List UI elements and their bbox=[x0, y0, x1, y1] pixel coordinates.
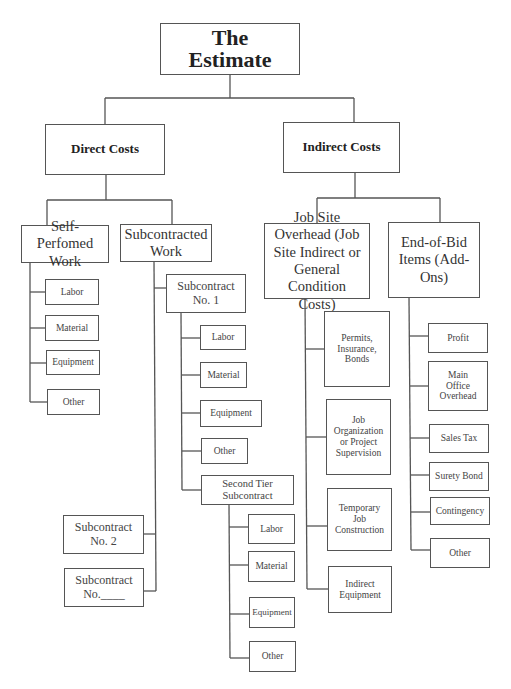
node-indirect-costs: Indirect Costs bbox=[283, 122, 400, 173]
root-line1: The bbox=[212, 27, 249, 49]
node-subcontract-1: Subcontract No. 1 bbox=[166, 274, 246, 313]
add-on-main-office-overhead: Main Office Overhead bbox=[428, 361, 488, 411]
root-line2: Estimate bbox=[188, 49, 271, 71]
node-second-tier-subcontract: Second Tier Subcontract bbox=[201, 475, 294, 505]
second-tier-equipment: Equipment bbox=[249, 597, 295, 628]
node-self-performed-work: Self-Perfomed Work bbox=[21, 225, 109, 263]
second-tier-labor: Labor bbox=[248, 514, 295, 544]
self-performed-material: Material bbox=[45, 315, 99, 341]
sub1-equipment: Equipment bbox=[200, 400, 262, 427]
add-on-surety-bond: Surety Bond bbox=[429, 462, 489, 491]
add-on-profit: Profit bbox=[428, 323, 488, 353]
second-tier-other: Other bbox=[249, 641, 296, 672]
node-end-of-bid-items: End-of-Bid Items (Add-Ons) bbox=[388, 222, 480, 298]
job-site-permits-insurance-bonds: Permits, Insurance, Bonds bbox=[324, 311, 390, 387]
node-direct-costs: Direct Costs bbox=[45, 124, 165, 175]
add-on-other: Other bbox=[430, 538, 490, 568]
sub1-material: Material bbox=[200, 362, 247, 388]
node-subcontracted-work: Subcontracted Work bbox=[120, 224, 212, 262]
root-node-estimate: The Estimate bbox=[160, 23, 300, 75]
job-site-temporary-construction: Temporary Job Construction bbox=[327, 488, 392, 551]
node-subcontract-2: Subcontract No. 2 bbox=[63, 515, 144, 554]
add-on-sales-tax: Sales Tax bbox=[429, 424, 489, 453]
sub1-other: Other bbox=[201, 438, 248, 464]
job-site-job-organization: Job Organization or Project Supervision bbox=[326, 399, 391, 475]
job-site-indirect-equipment: Indirect Equipment bbox=[328, 566, 392, 613]
add-on-contingency: Contingency bbox=[430, 497, 490, 525]
second-tier-material: Material bbox=[248, 551, 295, 582]
node-subcontract-n: Subcontract No.____ bbox=[64, 568, 144, 607]
self-performed-other: Other bbox=[47, 389, 100, 415]
node-job-site-overhead: Job Site Overhead (Job Site Indirect or … bbox=[264, 223, 370, 299]
self-performed-labor: Labor bbox=[45, 279, 99, 305]
sub1-labor: Labor bbox=[200, 325, 246, 350]
self-performed-equipment: Equipment bbox=[46, 350, 100, 375]
